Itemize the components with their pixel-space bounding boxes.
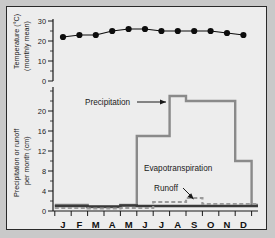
water-ytick-16: 16 bbox=[38, 127, 46, 136]
temperature-y-ticks bbox=[48, 21, 53, 81]
water-ytick-0: 0 bbox=[42, 207, 46, 216]
evapotranspiration-series bbox=[55, 206, 258, 207]
runoff-label: Runoff bbox=[154, 184, 179, 193]
month-label-jul: J bbox=[159, 219, 164, 230]
month-label-jun: J bbox=[142, 219, 147, 230]
precipitation-arrow-icon bbox=[137, 99, 166, 104]
month-label-jan: J bbox=[60, 219, 65, 230]
precipitation-label: Precipitation bbox=[85, 98, 131, 107]
water-ytick-20: 20 bbox=[38, 107, 46, 116]
month-label-feb: F bbox=[76, 219, 82, 230]
month-label-oct: O bbox=[207, 219, 214, 230]
temp-ytick-20: 20 bbox=[38, 37, 46, 46]
chart-canvas: Temperature (°C) (monthly mean) 30 20 10 bbox=[7, 7, 266, 229]
temp-ytick-0: 0 bbox=[42, 77, 46, 86]
month-label-dec: D bbox=[240, 219, 247, 230]
temperature-panel: Temperature (°C) (monthly mean) 30 20 10 bbox=[12, 14, 247, 86]
figure-panel: Temperature (°C) (monthly mean) 30 20 10 bbox=[6, 6, 267, 230]
temp-ytick-30: 30 bbox=[38, 17, 46, 26]
temperature-series-markers bbox=[60, 26, 247, 40]
month-label-nov: N bbox=[224, 219, 231, 230]
water-y-ticks bbox=[48, 91, 53, 211]
evapotranspiration-label: Evapotranspiration bbox=[144, 164, 213, 173]
temperature-ylabel-line1: Temperature (°C) bbox=[12, 14, 21, 69]
month-label-mar: M bbox=[92, 219, 100, 230]
water-x-ticks bbox=[55, 211, 252, 216]
temp-ytick-10: 10 bbox=[38, 57, 46, 66]
water-ytick-8: 8 bbox=[42, 167, 46, 176]
month-label-sep: S bbox=[191, 219, 197, 230]
water-ytick-4: 4 bbox=[42, 187, 46, 196]
month-label-apr: A bbox=[109, 219, 116, 230]
water-balance-panel: Precipitation or runoff per month (cm) bbox=[12, 87, 258, 230]
month-label-may: M bbox=[125, 219, 133, 230]
water-ylabel-line2: per month (cm) bbox=[22, 136, 31, 185]
month-label-aug: A bbox=[174, 219, 181, 230]
temperature-series-line bbox=[63, 29, 243, 37]
water-ylabel-line1: Precipitation or runoff bbox=[12, 129, 21, 197]
x-axis-month-labels: J F M A M J J A S O N D bbox=[60, 219, 247, 230]
water-ytick-12: 12 bbox=[38, 147, 46, 156]
temperature-ylabel-line2: (monthly mean) bbox=[22, 21, 31, 71]
